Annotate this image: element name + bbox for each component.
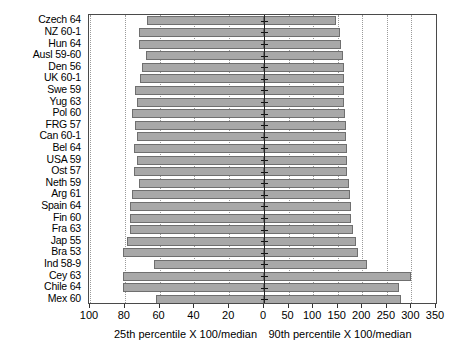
bar-right	[264, 225, 353, 234]
bar-left	[137, 156, 264, 165]
bar-left	[123, 283, 264, 292]
category-label: Jap 55	[51, 235, 81, 246]
bar-left	[137, 132, 264, 141]
bar-right	[264, 132, 346, 141]
gridline-right-250	[387, 15, 389, 303]
bar-left	[139, 40, 264, 49]
bar-left	[156, 295, 264, 304]
bar-right	[264, 121, 346, 130]
axis-tick-right-200	[361, 304, 362, 308]
axis-tick-right-300	[410, 304, 411, 308]
gridline-right-300	[411, 15, 413, 303]
plot-area	[88, 14, 437, 304]
population-percentile-chart: Czech 64NZ 60-1Hun 64Ausl 59-60Den 56UK …	[0, 0, 467, 357]
category-label: NZ 60-1	[44, 26, 81, 37]
category-label: Fin 60	[53, 212, 81, 223]
bar-left	[123, 248, 264, 257]
bar-left	[146, 51, 264, 60]
category-label: Ausl 59-60	[33, 49, 81, 60]
gridline-left-80	[125, 15, 127, 303]
category-label: Pol 60	[52, 107, 81, 118]
bar-right	[264, 260, 367, 269]
category-label: Arg 61	[51, 188, 81, 199]
bar-right	[264, 16, 336, 25]
category-label: Neth 59	[46, 177, 81, 188]
bar-left	[135, 86, 264, 95]
axis-tick-label-right-200: 200	[352, 310, 370, 321]
axis-tick-label-right-50: 50	[281, 310, 293, 321]
center-axis-line	[264, 15, 265, 303]
bar-left	[127, 237, 264, 246]
bar-left	[130, 225, 264, 234]
axis-tick-right-0	[263, 304, 264, 308]
gridline-right-350	[436, 15, 437, 303]
axis-tick-label-right-150: 150	[328, 310, 346, 321]
category-label: Czech 64	[38, 14, 81, 25]
category-label-column: Czech 64NZ 60-1Hun 64Ausl 59-60Den 56UK …	[0, 14, 84, 304]
axis-tick-right-100	[312, 304, 313, 308]
axis-tick-label-right-100: 100	[303, 310, 321, 321]
bar-left	[132, 109, 264, 118]
bar-right	[264, 237, 356, 246]
category-label: Yug 63	[50, 96, 82, 107]
axis-tick-label-right-0: 0	[260, 310, 266, 321]
bar-right	[264, 40, 341, 49]
category-label: Can 60-1	[39, 130, 81, 141]
category-label: USA 59	[47, 154, 81, 165]
axis-tick-label-right-350: 350	[426, 310, 444, 321]
bar-right	[264, 214, 351, 223]
axis-tick-left-100	[89, 304, 90, 308]
bar-left	[132, 190, 264, 199]
bar-right	[264, 295, 401, 304]
bar-right	[264, 98, 344, 107]
category-label: Swe 59	[47, 84, 81, 95]
bar-right	[264, 28, 340, 37]
bar-right	[264, 156, 347, 165]
bar-left	[139, 179, 264, 188]
bar-right	[264, 144, 347, 153]
bar-right	[264, 86, 344, 95]
left-axis-caption: 25th percentile X 100/median	[114, 329, 257, 340]
category-label: Bra 53	[51, 246, 81, 257]
category-label: Hun 64	[48, 38, 81, 49]
bar-left	[134, 144, 265, 153]
axis-tick-left-20	[228, 304, 229, 308]
bar-left	[154, 260, 264, 269]
bar-left	[140, 74, 264, 83]
bar-right	[264, 202, 351, 211]
axis-tick-left-80	[124, 304, 125, 308]
axis-tick-label-left-20: 20	[222, 310, 234, 321]
category-label: Spain 64	[41, 200, 81, 211]
category-label: Den 56	[48, 61, 81, 72]
category-label: Fra 63	[52, 223, 81, 234]
gridline-left-100	[90, 15, 92, 303]
category-label: UK 60-1	[44, 72, 81, 83]
bar-left	[142, 63, 264, 72]
category-label: Mex 60	[48, 293, 81, 304]
bar-left	[130, 202, 264, 211]
category-label: Cey 63	[49, 270, 81, 281]
bar-left	[139, 28, 264, 37]
right-axis-caption: 90th percentile X 100/median	[268, 329, 411, 340]
bar-left	[130, 214, 264, 223]
axis-tick-label-left-100: 100	[80, 310, 98, 321]
bar-right	[264, 167, 347, 176]
bar-left	[135, 121, 264, 130]
bar-left	[123, 272, 264, 281]
axis-tick-label-right-300: 300	[401, 310, 419, 321]
axis-tick-label-left-80: 80	[118, 310, 130, 321]
bar-left	[137, 98, 264, 107]
axis-tick-label-left-40: 40	[187, 310, 199, 321]
axis-tick-right-250	[386, 304, 387, 308]
axis-tick-right-150	[337, 304, 338, 308]
bar-right	[264, 74, 344, 83]
category-label: Ost 57	[51, 165, 81, 176]
bar-right	[264, 283, 399, 292]
bar-right	[264, 63, 344, 72]
axis-tick-right-350	[435, 304, 436, 308]
bar-left	[147, 16, 264, 25]
bar-right	[264, 179, 349, 188]
category-label: Ind 58-9	[44, 258, 81, 269]
category-label: Chile 64	[44, 281, 81, 292]
bar-right	[264, 109, 345, 118]
